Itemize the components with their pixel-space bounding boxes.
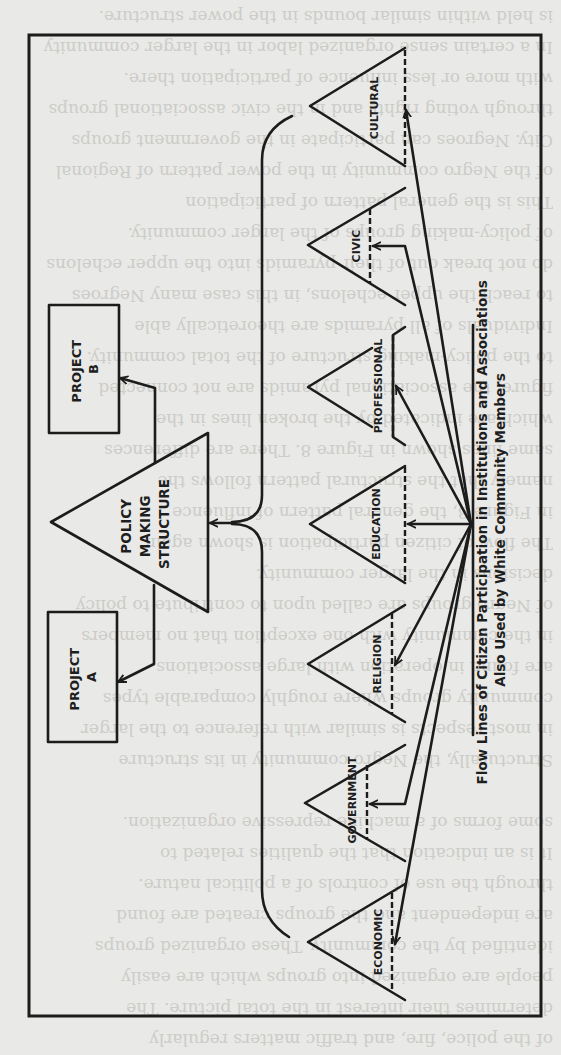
flow-to-economic [395, 524, 471, 944]
triangle-cultural: CULTURAL [310, 48, 405, 166]
caption: Flow Lines of Citizen Participation in I… [474, 275, 508, 784]
arrow-to-project-b [120, 378, 155, 463]
label-education: EDUCATION [370, 488, 383, 559]
label-economic: ECONOMIC [372, 909, 385, 976]
flow-to-religion [395, 524, 471, 665]
flow-to-civic [373, 246, 471, 524]
diagram-frame [29, 35, 541, 1016]
project-a-label: PROJECT A [67, 643, 99, 710]
triangle-education: EDUCATION [310, 466, 405, 583]
grouping-brace [210, 116, 292, 937]
triangle-religion: RELIGION [308, 605, 405, 722]
project-a-box: PROJECT A [48, 612, 117, 742]
project-b-box: PROJECT B [49, 305, 119, 433]
label-civic: CIVIC [350, 230, 363, 263]
policy-making-structure-triangle: POLICY MAKING STRUCTURE [51, 433, 208, 612]
triangle-professional: PROFESSIONAL [308, 327, 405, 445]
label-religion: RELIGION [371, 635, 384, 694]
policy-label: POLICY MAKING STRUCTURE [118, 479, 172, 569]
triangle-economic: ECONOMIC [308, 884, 405, 1000]
arrow-to-project-a [118, 585, 154, 682]
flow-lines [370, 110, 471, 944]
project-b-label: PROJECT B [69, 335, 101, 402]
label-government: GOVERNMENT [346, 756, 359, 843]
flow-to-government [370, 524, 471, 804]
label-professional: PROFESSIONAL [372, 339, 385, 433]
label-cultural: CULTURAL [368, 77, 381, 140]
community-power-diagram: PROJECT B PROJECT A POLICY MAKING STRUCT… [0, 0, 561, 1055]
